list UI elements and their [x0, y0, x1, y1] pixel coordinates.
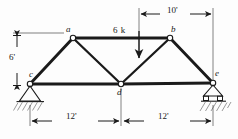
member-c-a: [30, 38, 73, 84]
pin-support: [14, 86, 45, 111]
joint-b: [167, 35, 172, 40]
joint-a: [70, 35, 75, 40]
joint-label-a: a: [66, 25, 71, 34]
member-d-e: [121, 83, 213, 84]
truss-joints: [27, 35, 215, 86]
roller-right: [218, 96, 223, 100]
joint-label-c: c: [29, 70, 33, 79]
joint-label-e: e: [215, 69, 219, 78]
roller-support-hatching: [200, 102, 231, 111]
pin-support-hatching: [14, 102, 43, 111]
dimension-label-left-span: 12': [66, 112, 77, 121]
joint-label-b: b: [171, 25, 176, 34]
joint-label-d: d: [117, 88, 122, 97]
roller-support: [200, 85, 231, 111]
load-label: 6 k: [113, 26, 126, 35]
roller-left: [204, 96, 209, 100]
dimension-height-6ft: [13, 33, 64, 86]
member-b-e: [170, 38, 213, 83]
dimension-label-right-span: 12': [158, 112, 169, 121]
truss-diagram: a b c d e 6 k 6' 10' 12' 12': [0, 0, 238, 139]
dimension-label-top-right-span: 10': [167, 6, 178, 15]
joint-d: [118, 81, 123, 86]
member-d-b: [121, 38, 170, 84]
truss-drawing-canvas: [0, 0, 238, 139]
truss-members: [30, 38, 213, 84]
dimension-label-height: 6': [9, 53, 15, 62]
member-a-d: [73, 38, 121, 84]
